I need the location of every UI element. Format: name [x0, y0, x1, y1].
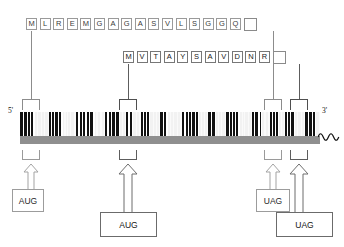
residue-box: S — [148, 18, 159, 30]
residue-box: A — [205, 51, 216, 63]
arrow-start-1 — [23, 164, 39, 192]
residue-box: R — [259, 51, 270, 63]
peptide-row-orf2: MVTAYSAVDNR — [123, 51, 288, 64]
residue-box: E — [67, 18, 78, 30]
lead-line-orf1-stop — [273, 31, 274, 100]
residue-box: G — [94, 18, 105, 30]
residue-box: T — [150, 51, 161, 63]
residue-box: S — [191, 51, 202, 63]
residue-box: M — [123, 51, 134, 63]
arrow-stop-1 — [265, 164, 281, 192]
residue-box: Y — [177, 51, 188, 63]
bracket-below-stop-1 — [264, 150, 282, 160]
arrow-start-2 — [118, 164, 138, 214]
mrna-strand — [20, 112, 320, 146]
codon-box-start-2[interactable]: AUG — [100, 212, 157, 237]
residue-box: A — [108, 18, 119, 30]
residue-box: N — [245, 51, 256, 63]
mrna-backbone — [20, 136, 320, 144]
bracket-below-start-2 — [119, 150, 137, 160]
residue-box: M — [80, 18, 91, 30]
codon-box-stop-2[interactable]: UAG — [276, 212, 333, 237]
lead-line-orf1-start — [31, 31, 32, 100]
five-prime-label: 5' — [8, 106, 13, 115]
lead-line-orf2-stop — [299, 64, 300, 100]
stop-codon-box — [244, 18, 257, 31]
bracket-below-start-1 — [22, 150, 40, 160]
residue-box: R — [53, 18, 64, 30]
residue-box: D — [232, 51, 243, 63]
residue-box: V — [162, 18, 173, 30]
arrow-stop-2 — [289, 164, 309, 214]
bracket-above-orf2-stop — [290, 99, 308, 110]
peptide-row-orf1: MLREMGAGASVLSGGQ — [26, 18, 259, 31]
residue-box: G — [216, 18, 227, 30]
residue-box: V — [218, 51, 229, 63]
residue-box: G — [203, 18, 214, 30]
bracket-above-orf1-start — [22, 99, 40, 110]
mrna-translation-diagram: MLREMGAGASVLSGGQ MVTAYSAVDNR 5' 3' — [0, 0, 344, 247]
residue-box: L — [40, 18, 51, 30]
residue-box: L — [176, 18, 187, 30]
residue-box: V — [137, 51, 148, 63]
bracket-above-orf2-start — [119, 99, 137, 110]
codon-box-start-1[interactable]: AUG — [12, 189, 44, 212]
three-prime-label: 3' — [322, 106, 327, 115]
bracket-below-stop-2 — [290, 150, 308, 160]
residue-box: Q — [230, 18, 241, 30]
codon-box-stop-1[interactable]: UAG — [256, 189, 290, 212]
residue-box: A — [164, 51, 175, 63]
residue-box: A — [135, 18, 146, 30]
lead-line-orf2-start — [128, 64, 129, 100]
mrna-nucleotide-bars — [20, 112, 320, 136]
residue-box: S — [189, 18, 200, 30]
bracket-above-orf1-stop — [264, 99, 282, 110]
poly-a-tail-squiggle-icon — [318, 130, 340, 144]
residue-box: M — [26, 18, 37, 30]
stop-codon-box — [273, 51, 286, 64]
residue-box: G — [121, 18, 132, 30]
